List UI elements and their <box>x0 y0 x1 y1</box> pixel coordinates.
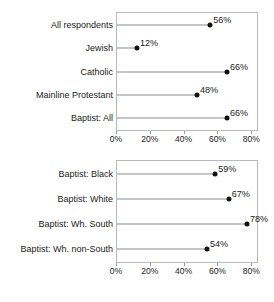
category-label: All respondents <box>51 20 113 29</box>
value-label: 66% <box>230 63 248 72</box>
x-axis-bottom: 0%20%40%60%80% <box>116 263 258 283</box>
value-label: 48% <box>200 86 218 95</box>
x-tick-label: 20% <box>141 135 158 144</box>
x-axis-top: 0%20%40%60%80% <box>116 131 258 151</box>
x-tick-label: 40% <box>175 267 192 276</box>
category-label: Baptist: Wh. South <box>38 220 113 229</box>
data-point-marker <box>225 116 230 121</box>
value-label: 54% <box>210 240 228 249</box>
x-tick-label: 20% <box>141 267 158 276</box>
x-tick-label: 0% <box>110 267 122 276</box>
value-label: 78% <box>250 215 268 224</box>
stem-line <box>117 224 247 225</box>
value-label: 56% <box>213 16 231 25</box>
stem-line <box>117 24 210 25</box>
data-point-marker <box>205 247 210 252</box>
stem-line <box>117 94 197 95</box>
plot-area-bottom: Baptist: Black59%Baptist: White67%Baptis… <box>116 160 258 263</box>
stem-line <box>117 118 227 119</box>
x-tick-label: 80% <box>243 135 260 144</box>
lollipop-chart-figure: All respondents56%Jewish12%Catholic66%Ma… <box>0 0 274 302</box>
data-point-marker <box>135 46 140 51</box>
chart-top: All respondents56%Jewish12%Catholic66%Ma… <box>0 0 274 150</box>
category-label: Jewish <box>85 44 113 53</box>
stem-line <box>117 173 215 174</box>
x-tick-label: 60% <box>209 135 226 144</box>
value-label: 66% <box>230 109 248 118</box>
data-rows-bottom: Baptist: Black59%Baptist: White67%Baptis… <box>117 161 257 262</box>
plot-area-top: All respondents56%Jewish12%Catholic66%Ma… <box>116 12 258 131</box>
data-point-marker <box>208 22 213 27</box>
data-rows-top: All respondents56%Jewish12%Catholic66%Ma… <box>117 13 257 130</box>
category-label: Baptist: Black <box>58 169 113 178</box>
data-point-marker <box>213 171 218 176</box>
chart-bottom: Baptist: Black59%Baptist: White67%Baptis… <box>0 150 274 302</box>
stem-line <box>117 249 207 250</box>
category-label: Baptist: Wh. non-South <box>20 245 113 254</box>
category-label: Baptist: All <box>71 114 113 123</box>
x-tick-label: 0% <box>110 135 122 144</box>
data-point-marker <box>195 92 200 97</box>
data-point-marker <box>226 196 231 201</box>
category-label: Baptist: White <box>57 194 113 203</box>
value-label: 59% <box>218 165 236 174</box>
category-label: Mainline Protestant <box>36 90 113 99</box>
value-label: 12% <box>140 39 158 48</box>
data-point-marker <box>225 69 230 74</box>
category-label: Catholic <box>80 67 113 76</box>
x-tick-label: 40% <box>175 135 192 144</box>
stem-line <box>117 71 227 72</box>
value-label: 67% <box>232 190 250 199</box>
data-point-marker <box>245 222 250 227</box>
stem-line <box>117 198 229 199</box>
x-tick-label: 60% <box>209 267 226 276</box>
x-tick-label: 80% <box>243 267 260 276</box>
